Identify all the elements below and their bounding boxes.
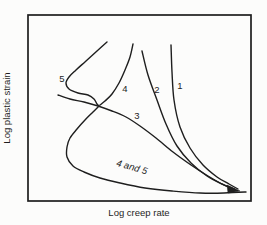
curve-label-4-and-5: 4 and 5 (115, 157, 149, 177)
x-axis-label: Log creep rate (108, 207, 169, 218)
creep-curves-figure: 542134 and 5 Log creep rate Log plastic … (0, 0, 267, 225)
curve-4-and-5-merged-continuation (66, 106, 246, 193)
curve-label-5: 5 (59, 73, 64, 84)
curve-4 (100, 44, 133, 105)
curve-label-3: 3 (134, 110, 139, 121)
y-axis-label: Log plastic strain (1, 72, 12, 143)
creep-diagram: 542134 and 5 Log creep rate Log plastic … (0, 0, 267, 225)
curve-1 (171, 45, 238, 189)
curve-label-4: 4 (122, 83, 127, 94)
curve-label-1: 1 (177, 80, 182, 91)
curve-label-2: 2 (154, 84, 159, 95)
curve-5 (66, 42, 107, 106)
plot-area: 542134 and 5 (28, 15, 251, 201)
curve-2 (142, 51, 234, 189)
